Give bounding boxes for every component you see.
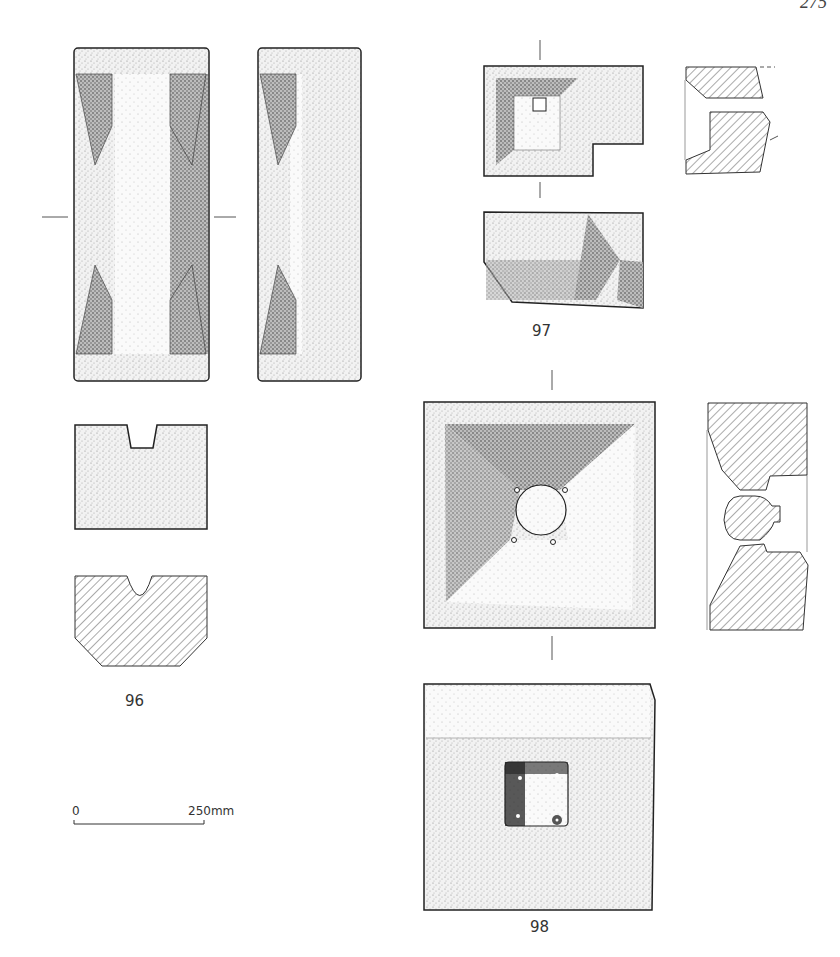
figure-98-reverse-face bbox=[0, 0, 840, 957]
figure-label-98: 98 bbox=[530, 918, 549, 936]
